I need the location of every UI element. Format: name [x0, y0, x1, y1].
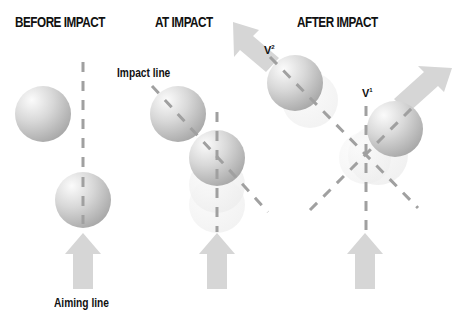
aiming-arrow-icon — [65, 233, 101, 289]
impact-line-label: Impact line — [117, 66, 170, 80]
v1-label-sup: 1 — [369, 87, 372, 93]
diagram-canvas — [0, 0, 465, 326]
panel-after-impact — [233, 22, 452, 289]
aiming-arrow-icon — [347, 233, 383, 289]
object-ball — [15, 86, 71, 142]
panel-title-after-impact: AFTER IMPACT — [297, 13, 378, 30]
panel-before-impact — [15, 62, 111, 289]
aiming-arrow-icon — [199, 233, 235, 289]
panel-at-impact — [150, 86, 268, 289]
v1-label: V1 — [362, 87, 373, 99]
v2-label-sup: 2 — [271, 44, 274, 50]
v2-label: V2 — [264, 44, 275, 56]
billiard-impact-diagram: BEFORE IMPACT AT IMPACT AFTER IMPACT Imp… — [0, 0, 465, 326]
panel-title-at-impact: AT IMPACT — [155, 13, 213, 30]
aiming-line-label: Aiming line — [54, 296, 109, 310]
cue-ball — [367, 101, 423, 157]
panel-title-before-impact: BEFORE IMPACT — [15, 13, 105, 30]
